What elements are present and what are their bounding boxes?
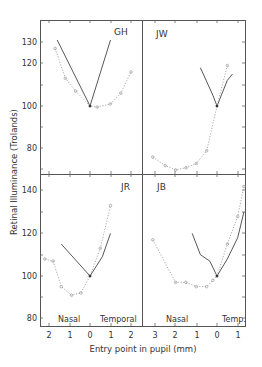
origin-point — [216, 105, 218, 107]
xtick: 1 — [194, 331, 199, 340]
solid-line — [61, 233, 110, 276]
xtick: 2 — [172, 331, 177, 340]
data-point — [212, 279, 215, 282]
solid-line — [200, 68, 232, 106]
xtick: 2 — [46, 331, 51, 340]
origin-point — [89, 105, 91, 107]
data-point — [109, 103, 112, 106]
panel-title-jb: JB — [156, 182, 166, 192]
panel-gh — [54, 40, 132, 108]
ytick-140: 140 — [22, 186, 37, 195]
panel-frames — [40, 20, 246, 327]
ytick-80: 80 — [27, 144, 37, 153]
dotted-line — [45, 206, 111, 296]
xtick: 2 — [128, 331, 133, 340]
panel-title-jr: JR — [120, 182, 130, 192]
data-point — [109, 204, 112, 207]
xtick: 1 — [67, 331, 72, 340]
dotted-line — [153, 66, 228, 170]
xtick: 0 — [87, 331, 92, 340]
solid-line — [192, 212, 244, 276]
left-x-tick-labels: 2 1 0 1 2 — [46, 331, 133, 340]
panel-jr — [44, 204, 112, 296]
panel-title-gh: GH — [114, 27, 128, 37]
label-nasal-left: Nasal — [58, 315, 80, 324]
y-axis-label: Retinal Illuminance (Trolands) — [9, 109, 19, 235]
ytick-120: 120 — [22, 59, 37, 68]
data-point — [130, 71, 133, 74]
xtick: 1 — [108, 331, 113, 340]
panel-title-jw: JW — [155, 29, 168, 39]
solid-line — [57, 40, 110, 106]
ytick-100: 100 — [22, 102, 37, 111]
dotted-line — [153, 187, 244, 287]
origin-point — [216, 275, 218, 277]
top-y-tick-labels: 130 120 100 80 — [22, 38, 37, 153]
label-temporal-left: Temporal — [99, 315, 137, 324]
xtick: 3 — [152, 331, 157, 340]
xtick: 1 — [235, 331, 240, 340]
panel-jw — [152, 64, 233, 171]
label-nasal-right: Nasal — [166, 315, 188, 324]
ytick-80: 80 — [27, 314, 37, 323]
bottom-y-tick-labels: 140 120 100 80 — [22, 186, 37, 323]
ytick-100: 100 — [22, 272, 37, 281]
panel-jb — [152, 185, 246, 288]
origin-point — [89, 275, 91, 277]
panel-titles: GH JW JR JB — [114, 27, 168, 192]
region-labels: Nasal Temporal Nasal Temp. — [58, 315, 246, 324]
figure: 130 120 100 80 140 120 100 80 2 1 0 1 2 … — [0, 0, 262, 367]
x-axis-label: Entry point in pupil (mm) — [90, 344, 197, 354]
ytick-120: 120 — [22, 229, 37, 238]
ytick-130: 130 — [22, 38, 37, 47]
plot-lines — [44, 40, 246, 296]
label-temporal-right: Temp. — [221, 315, 246, 324]
right-x-tick-labels: 3 2 1 0 1 — [152, 331, 240, 340]
xtick: 0 — [214, 331, 219, 340]
